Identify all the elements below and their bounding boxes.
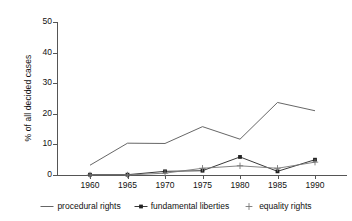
x-tick-mark <box>278 175 279 179</box>
legend-label: procedural rights <box>57 201 120 211</box>
y-tick-label: 10 <box>28 138 52 148</box>
y-tick-mark <box>53 114 57 115</box>
x-tick-label: 1960 <box>70 180 110 190</box>
y-tick-mark <box>53 83 57 84</box>
y-axis-line <box>57 22 58 176</box>
x-tick-label: 1985 <box>258 180 298 190</box>
x-tick-label: 1990 <box>295 180 335 190</box>
legend-item-fundamental-liberties[interactable]: fundamental liberties <box>134 201 229 211</box>
chart-legend: procedural rightsfundamental libertieseq… <box>0 198 352 214</box>
legend-item-procedural-rights[interactable]: procedural rights <box>40 201 120 211</box>
x-tick-mark <box>90 175 91 179</box>
legend-marker-icon <box>242 202 256 211</box>
x-tick-label: 1975 <box>183 180 223 190</box>
y-tick-label: 30 <box>28 77 52 87</box>
y-tick-mark <box>53 53 57 54</box>
x-tick-label: 1980 <box>220 180 260 190</box>
legend-label: fundamental liberties <box>151 201 229 211</box>
series-procedural-rights <box>90 102 315 165</box>
legend-item-equality-rights[interactable]: equality rights <box>242 201 311 211</box>
chart-container: % of all decided cases 01020304050 19601… <box>0 0 352 221</box>
x-tick-mark <box>315 175 316 179</box>
legend-marker-icon <box>40 202 54 211</box>
x-tick-mark <box>240 175 241 179</box>
y-tick-label: 20 <box>28 108 52 118</box>
y-tick-mark <box>53 175 57 176</box>
x-tick-mark <box>165 175 166 179</box>
x-tick-mark <box>128 175 129 179</box>
y-tick-label: 0 <box>28 169 52 179</box>
y-tick-mark <box>53 144 57 145</box>
legend-marker-icon <box>134 202 148 211</box>
legend-label: equality rights <box>259 201 311 211</box>
y-tick-label: 40 <box>28 47 52 57</box>
series-fundamental-liberties <box>88 155 317 177</box>
x-tick-mark <box>203 175 204 179</box>
x-tick-label: 1965 <box>108 180 148 190</box>
y-tick-mark <box>53 22 57 23</box>
y-tick-label: 50 <box>28 16 52 26</box>
x-tick-label: 1970 <box>145 180 185 190</box>
